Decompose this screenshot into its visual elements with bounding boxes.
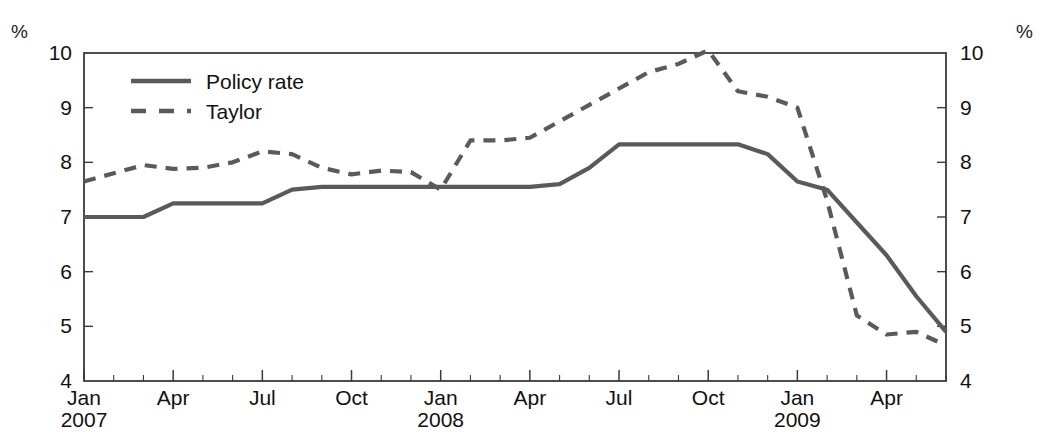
y-axis-tick-label-right: 5	[960, 315, 994, 336]
y-axis-tick-label-right: 9	[960, 97, 994, 118]
y-axis-tick-label-left: 8	[38, 151, 72, 172]
y-axis-tick-label-left: 5	[38, 315, 72, 336]
x-axis-tick-label: Oct	[312, 387, 392, 409]
x-axis-tick-label: Apr	[847, 387, 927, 409]
x-axis-tick-label: Jan2007	[44, 387, 124, 431]
x-axis-tick-label: Jul	[579, 387, 659, 409]
chart-legend: Policy rate Taylor	[130, 66, 304, 126]
x-axis-tick-label: Jan2008	[401, 387, 481, 431]
y-axis-tick-label-left: 6	[38, 261, 72, 282]
legend-label-taylor: Taylor	[206, 101, 262, 122]
legend-item-taylor: Taylor	[130, 96, 304, 126]
y-axis-tick-label-left: 9	[38, 97, 72, 118]
legend-swatch-dashed	[130, 102, 192, 120]
x-axis-tick-label: Oct	[668, 387, 748, 409]
x-axis-tick-label: Jan2009	[757, 387, 837, 431]
x-axis-tick-label: Apr	[133, 387, 213, 409]
legend-swatch-solid	[130, 72, 192, 90]
chart-figure: % % 4455667788991010 Jan2007AprJulOctJan…	[0, 0, 1051, 440]
y-axis-tick-label-right: 4	[960, 370, 994, 391]
y-axis-tick-label-right: 6	[960, 261, 994, 282]
x-axis-tick-label: Jul	[222, 387, 302, 409]
legend-label-policy-rate: Policy rate	[206, 71, 304, 92]
y-axis-tick-label-left: 10	[38, 42, 72, 63]
legend-item-policy-rate: Policy rate	[130, 66, 304, 96]
y-axis-tick-label-right: 7	[960, 206, 994, 227]
y-axis-tick-label-right: 10	[960, 42, 994, 63]
y-axis-tick-label-right: 8	[960, 151, 994, 172]
y-axis-tick-label-left: 7	[38, 206, 72, 227]
x-axis-tick-label: Apr	[490, 387, 570, 409]
